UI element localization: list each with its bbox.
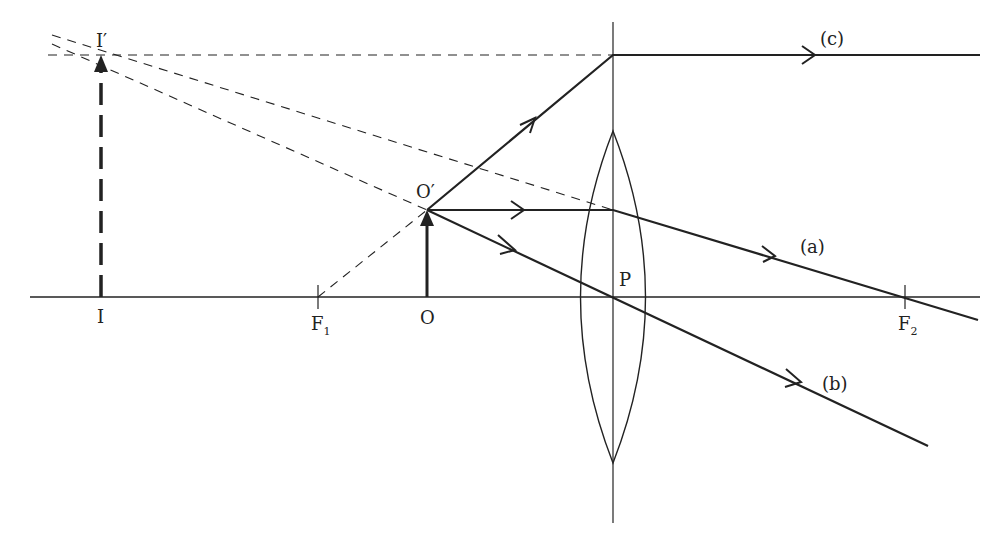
label-focus2: F2 (898, 313, 918, 338)
dashed-back-extension-b (52, 44, 427, 210)
ray-a (427, 210, 978, 320)
label-object-base: O (420, 307, 435, 328)
label-ray-c: (c) (820, 28, 844, 49)
label-image-top: I′ (96, 30, 107, 51)
label-lens-center: P (619, 269, 631, 290)
label-ray-a: (a) (800, 236, 825, 257)
label-image-base: I (97, 306, 104, 327)
dashed-back-extension-a (52, 35, 613, 210)
label-ray-b: (b) (822, 373, 848, 394)
dashed-focus-construction (318, 210, 427, 297)
ray-a-arrow-2 (762, 246, 775, 262)
label-focus1: F1 (311, 313, 331, 338)
ray-diagram: I′ I F1 O O′ P F2 (a) (b) (c) (0, 0, 1007, 549)
ray-c (427, 55, 980, 210)
label-object-top: O′ (416, 181, 435, 202)
ray-b (427, 210, 928, 446)
